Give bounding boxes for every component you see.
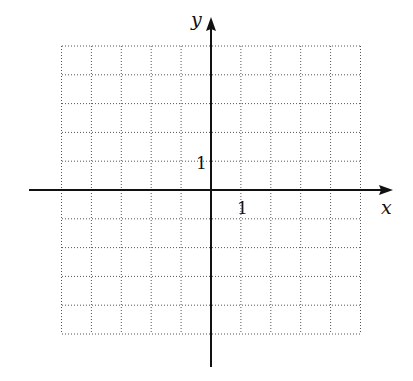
x-axis-arrow-icon: [379, 185, 393, 195]
coordinate-plane: x y 1 1: [0, 0, 413, 381]
y-tick-label: 1: [196, 153, 207, 173]
y-axis-arrow-icon: [206, 17, 216, 31]
x-tick-label: 1: [237, 198, 248, 218]
x-axis-label: x: [381, 196, 392, 218]
y-axis-label: y: [190, 8, 202, 30]
